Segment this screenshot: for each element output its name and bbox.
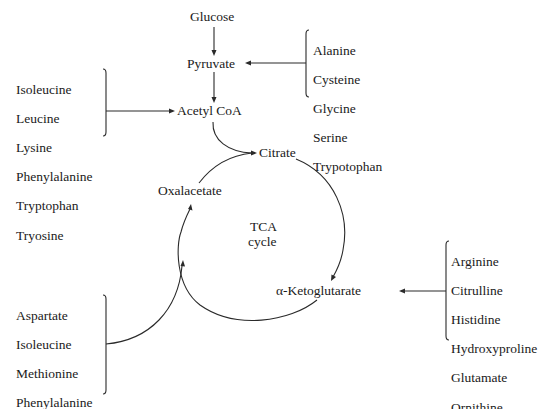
node-pyruvate: Pyruvate bbox=[187, 56, 235, 72]
node-acetyl-coa: Acetyl CoA bbox=[177, 103, 242, 119]
node-oxalacetate: Oxalacetate bbox=[158, 183, 222, 199]
amino-acid-item: Glycine bbox=[313, 102, 382, 117]
arrowhead bbox=[399, 289, 405, 294]
group-to-pyruvate: Alanine Cysteine Glycine Serine Trypotop… bbox=[313, 29, 382, 190]
amino-acid-item: Cysteine bbox=[313, 73, 382, 88]
node-citrate: Citrate bbox=[259, 145, 296, 161]
amino-acid-item: Lysine bbox=[16, 141, 92, 156]
arrowhead bbox=[188, 204, 193, 211]
amino-acid-item: Phenylalanine bbox=[16, 170, 92, 185]
bracket-oxalacetate-group bbox=[103, 295, 106, 394]
bracket-acetyl-coa-group bbox=[103, 69, 106, 136]
group-to-oxalacetate: Aspartate Isoleucine Methionine Phenylal… bbox=[16, 294, 92, 409]
amino-acid-item: Citrulline bbox=[451, 284, 537, 299]
amino-acid-item: Tryosine bbox=[16, 229, 92, 244]
amino-acid-item: Methionine bbox=[16, 367, 92, 382]
arc-oxalacetate-to-citrate bbox=[199, 153, 252, 183]
amino-acid-item: Arginine bbox=[451, 255, 537, 270]
amino-acid-item: Isoleucine bbox=[16, 338, 92, 353]
amino-acid-item: Histidine bbox=[451, 313, 537, 328]
amino-acid-item: Phenylalanine bbox=[16, 396, 92, 409]
arrowhead bbox=[181, 260, 186, 267]
amino-acid-item: Leucine bbox=[16, 112, 92, 127]
arc-ketoglutarate-to-oxalacetate bbox=[178, 209, 317, 320]
bracket-ketoglutarate-group bbox=[446, 241, 449, 340]
arrowhead bbox=[245, 61, 251, 66]
group-to-alpha-ketoglutarate: Arginine Citrulline Histidine Hydroxypro… bbox=[451, 240, 537, 409]
arrow-acetyl-coa-to-citrate bbox=[213, 122, 252, 153]
amino-acid-item: Tryptophan bbox=[16, 199, 92, 214]
node-alpha-ketoglutarate: α-Ketoglutarate bbox=[276, 283, 361, 299]
node-glucose: Glucose bbox=[190, 9, 234, 25]
amino-acid-item: Trypotophan bbox=[313, 160, 382, 175]
tca-label-line2: cycle bbox=[248, 234, 276, 250]
tca-label-line1: TCA bbox=[250, 219, 277, 235]
amino-acid-item: Ornithine bbox=[451, 401, 537, 409]
amino-acid-item: Isoleucine bbox=[16, 83, 92, 98]
amino-acid-item: Aspartate bbox=[16, 309, 92, 324]
amino-acid-item: Alanine bbox=[313, 44, 382, 59]
arrow-group-to-oxalacetate bbox=[106, 266, 182, 344]
amino-acid-item: Serine bbox=[313, 131, 382, 146]
group-to-acetyl-coa: Isoleucine Leucine Lysine Phenylalanine … bbox=[16, 68, 92, 258]
bracket-pyruvate-group bbox=[306, 30, 309, 97]
arrowhead bbox=[169, 109, 175, 114]
amino-acid-item: Hydroxyproline bbox=[451, 342, 537, 357]
amino-acid-item: Glutamate bbox=[451, 371, 537, 386]
